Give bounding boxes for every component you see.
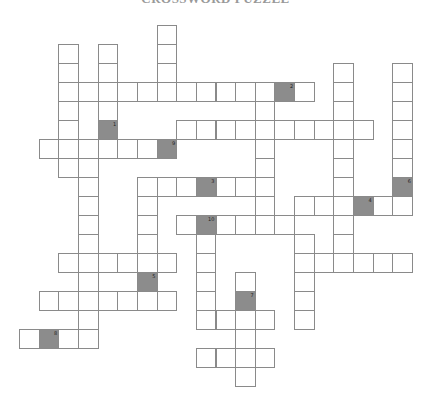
grid-cell[interactable] (176, 82, 197, 102)
grid-cell[interactable] (255, 215, 276, 235)
grid-cell[interactable] (58, 158, 79, 178)
grid-cell[interactable] (392, 139, 413, 159)
grid-cell[interactable] (39, 139, 60, 159)
grid-cell[interactable] (176, 177, 197, 197)
grid-cell[interactable] (58, 291, 79, 311)
grid-cell[interactable] (196, 291, 217, 311)
grid-cell[interactable] (255, 348, 276, 368)
grid-cell[interactable] (255, 310, 276, 330)
grid-cell[interactable] (235, 120, 256, 140)
grid-cell[interactable] (78, 196, 99, 216)
grid-cell[interactable] (98, 291, 119, 311)
grid-cell[interactable] (157, 44, 178, 64)
grid-cell[interactable] (235, 348, 256, 368)
grid-cell[interactable] (274, 215, 295, 235)
grid-cell[interactable] (314, 196, 335, 216)
grid-cell[interactable] (392, 120, 413, 140)
grid-cell[interactable] (58, 82, 79, 102)
grid-cell[interactable] (255, 177, 276, 197)
grid-cell[interactable] (157, 177, 178, 197)
grid-cell[interactable] (98, 101, 119, 121)
grid-cell[interactable] (196, 82, 217, 102)
grid-cell[interactable] (333, 253, 354, 273)
grid-cell[interactable] (98, 44, 119, 64)
grid-cell[interactable] (78, 158, 99, 178)
grid-cell[interactable] (333, 120, 354, 140)
grid-cell[interactable] (333, 139, 354, 159)
grid-cell[interactable] (294, 310, 315, 330)
grid-cell[interactable] (137, 177, 158, 197)
grid-cell[interactable] (216, 177, 237, 197)
grid-cell[interactable] (333, 101, 354, 121)
grid-cell[interactable] (117, 139, 138, 159)
grid-cell[interactable] (314, 253, 335, 273)
grid-cell[interactable] (19, 329, 40, 349)
grid-cell[interactable] (255, 120, 276, 140)
grid-cell[interactable] (137, 82, 158, 102)
grid-cell[interactable] (216, 120, 237, 140)
grid-cell[interactable] (137, 196, 158, 216)
grid-cell[interactable] (235, 310, 256, 330)
grid-cell[interactable] (235, 215, 256, 235)
grid-cell[interactable] (98, 82, 119, 102)
grid-cell[interactable] (373, 196, 394, 216)
grid-cell[interactable] (392, 63, 413, 83)
grid-cell[interactable] (78, 310, 99, 330)
grid-cell[interactable] (78, 139, 99, 159)
grid-cell[interactable] (392, 82, 413, 102)
grid-cell[interactable] (353, 253, 374, 273)
grid-cell[interactable] (333, 158, 354, 178)
grid-cell[interactable] (392, 253, 413, 273)
grid-cell[interactable] (216, 215, 237, 235)
grid-cell[interactable] (196, 348, 217, 368)
grid-cell[interactable] (196, 234, 217, 254)
grid-cell[interactable] (78, 234, 99, 254)
grid-cell[interactable] (294, 120, 315, 140)
grid-cell[interactable] (255, 82, 276, 102)
grid-cell[interactable] (117, 82, 138, 102)
grid-cell[interactable] (157, 253, 178, 273)
grid-cell[interactable] (392, 196, 413, 216)
grid-cell[interactable] (333, 63, 354, 83)
grid-cell[interactable] (294, 291, 315, 311)
grid-cell[interactable] (157, 63, 178, 83)
grid-cell[interactable] (333, 234, 354, 254)
grid-cell[interactable] (157, 82, 178, 102)
grid-cell[interactable] (157, 291, 178, 311)
grid-cell[interactable] (255, 101, 276, 121)
grid-cell[interactable] (255, 196, 276, 216)
grid-cell[interactable] (333, 196, 354, 216)
grid-cell[interactable] (216, 348, 237, 368)
grid-cell[interactable] (235, 82, 256, 102)
grid-cell[interactable] (176, 215, 197, 235)
grid-cell[interactable] (58, 44, 79, 64)
grid-cell[interactable] (98, 139, 119, 159)
grid-cell[interactable] (294, 82, 315, 102)
grid-cell[interactable] (78, 272, 99, 292)
grid-cell[interactable] (216, 82, 237, 102)
grid-cell[interactable] (137, 291, 158, 311)
grid-cell[interactable] (39, 291, 60, 311)
grid-cell[interactable] (176, 120, 197, 140)
grid-cell[interactable] (78, 253, 99, 273)
grid-cell[interactable] (117, 291, 138, 311)
grid-cell[interactable] (235, 329, 256, 349)
grid-cell[interactable] (392, 158, 413, 178)
grid-cell[interactable] (137, 234, 158, 254)
grid-cell[interactable] (235, 272, 256, 292)
grid-cell[interactable] (333, 82, 354, 102)
grid-cell[interactable] (255, 139, 276, 159)
grid-cell[interactable] (294, 234, 315, 254)
grid-cell[interactable] (117, 253, 138, 273)
grid-cell[interactable] (353, 120, 374, 140)
grid-cell[interactable] (235, 367, 256, 387)
grid-cell[interactable] (58, 120, 79, 140)
grid-cell[interactable] (78, 215, 99, 235)
grid-cell[interactable] (314, 120, 335, 140)
grid-cell[interactable] (333, 215, 354, 235)
grid-cell[interactable] (216, 310, 237, 330)
grid-cell[interactable] (196, 272, 217, 292)
grid-cell[interactable] (78, 291, 99, 311)
grid-cell[interactable] (98, 253, 119, 273)
grid-cell[interactable] (274, 120, 295, 140)
